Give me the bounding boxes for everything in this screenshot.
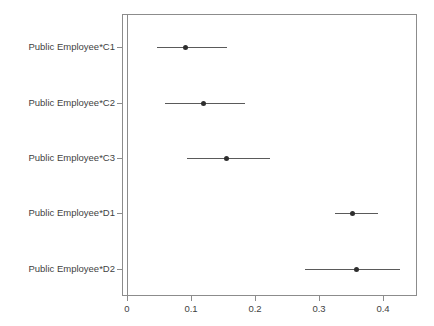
y-axis-label-text: Public Employee*C2: [28, 97, 115, 108]
y-axis-label-text: Public Employee*C3: [28, 152, 115, 163]
x-axis-tick-0: [127, 296, 128, 301]
y-axis-label-1: Public Employee*C2: [0, 97, 115, 108]
y-axis-label-text: Public Employee*C1: [28, 41, 115, 52]
x-axis-tick-label-3: 0.3: [299, 303, 339, 314]
y-axis-tick-0: [117, 47, 122, 48]
y-axis-label-2: Public Employee*C3: [0, 152, 115, 163]
confidence-interval-line: [157, 47, 227, 48]
y-axis-label-text: Public Employee*D2: [28, 263, 115, 274]
point-estimate-marker: [224, 156, 229, 161]
x-axis-tick-4: [383, 296, 384, 301]
y-axis-label-text: Public Employee*D1: [28, 207, 115, 218]
forest-plot-chart: Public Employee*C1 Public Employee*C2 Pu…: [0, 0, 434, 326]
x-axis-tick-2: [255, 296, 256, 301]
point-estimate-marker: [201, 101, 206, 106]
x-axis-tick-label-1: 0.1: [171, 303, 211, 314]
y-axis-label-4: Public Employee*D2: [0, 263, 115, 274]
y-axis-tick-3: [117, 213, 122, 214]
y-axis-label-0: Public Employee*C1: [0, 41, 115, 52]
confidence-interval-line: [305, 269, 400, 270]
x-axis-tick-3: [319, 296, 320, 301]
x-axis-tick-1: [191, 296, 192, 301]
x-axis-tick-label-4: 0.4: [363, 303, 403, 314]
zero-reference-line: [127, 14, 128, 296]
y-axis-tick-4: [117, 269, 122, 270]
x-axis-tick-label-0: 0: [107, 303, 147, 314]
y-axis-tick-2: [117, 158, 122, 159]
y-axis-label-3: Public Employee*D1: [0, 207, 115, 218]
y-axis-tick-1: [117, 103, 122, 104]
plot-area: [122, 14, 417, 296]
x-axis-tick-label-2: 0.2: [235, 303, 275, 314]
confidence-interval-line: [335, 213, 378, 214]
